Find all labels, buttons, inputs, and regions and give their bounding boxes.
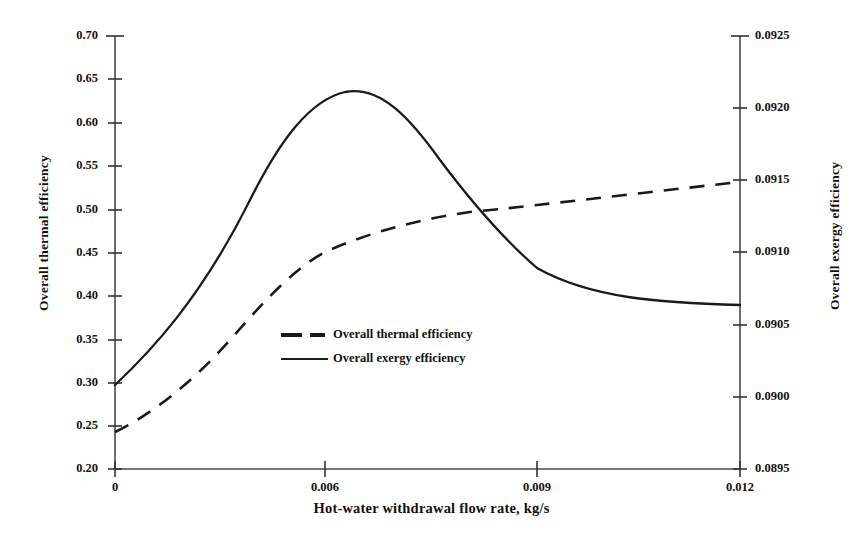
y-left-tick-label: 0.25 (38, 418, 98, 433)
y-left-tick-label: 0.55 (38, 158, 98, 173)
y-left-tick-label: 0.20 (38, 461, 98, 476)
x-tick-label: 0.009 (497, 480, 577, 495)
y-left-tick-label: 0.30 (38, 375, 98, 390)
figure-chart: Overall thermal efficiency Overall exerg… (0, 0, 863, 538)
legend-item-thermal: Overall thermal efficiency (333, 327, 473, 342)
x-tick-label: 0 (75, 480, 155, 495)
y-right-tick-label: 0.0905 (755, 317, 825, 332)
x-tick-label: 0.012 (700, 480, 780, 495)
y-right-tick-label: 0.0910 (755, 244, 825, 259)
y-left-tick-label: 0.50 (38, 202, 98, 217)
legend-item-exergy: Overall exergy efficiency (333, 351, 466, 366)
y-right-tick-label: 0.0895 (755, 461, 825, 476)
y-axis-left-title: Overall thermal efficiency (36, 103, 52, 363)
x-tick-label: 0.006 (285, 480, 365, 495)
plot-area (0, 0, 863, 538)
y-right-tick-label: 0.0915 (755, 172, 825, 187)
y-left-tick-label: 0.60 (38, 115, 98, 130)
series-line-thermal (115, 182, 740, 432)
y-right-tick-label: 0.0925 (755, 28, 825, 43)
y-right-tick-label: 0.0900 (755, 389, 825, 404)
x-axis-title: Hot-water withdrawal flow rate, kg/s (0, 500, 863, 517)
y-left-tick-label: 0.35 (38, 332, 98, 347)
y-left-tick-label: 0.40 (38, 288, 98, 303)
y-left-tick-label: 0.65 (38, 71, 98, 86)
y-left-tick-label: 0.45 (38, 245, 98, 260)
y-axis-right-title: Overall exergy efficiency (827, 106, 843, 366)
y-left-tick-label: 0.70 (38, 28, 98, 43)
y-right-tick-label: 0.0920 (755, 100, 825, 115)
